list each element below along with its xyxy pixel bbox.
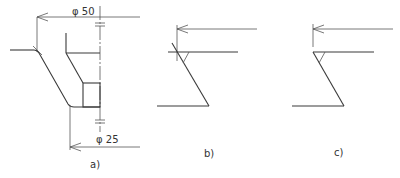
diagonal-edge bbox=[313, 52, 344, 106]
caption-c: c) bbox=[334, 147, 343, 158]
figure-a: φ 50 φ 25 a) bbox=[10, 6, 140, 170]
technical-drawing: φ 50 φ 25 a) b) bbox=[0, 0, 400, 178]
chamfer-mark bbox=[319, 52, 325, 63]
dimension-label-phi25: φ 25 bbox=[96, 134, 119, 145]
chamfer-mark bbox=[183, 52, 189, 63]
inner-rect bbox=[83, 83, 100, 107]
caption-b: b) bbox=[204, 148, 214, 159]
inner-diagonal bbox=[66, 53, 83, 83]
figure-b: b) bbox=[157, 25, 257, 159]
outer-profile bbox=[34, 50, 100, 107]
caption-a: a) bbox=[90, 159, 100, 170]
figure-c: c) bbox=[292, 24, 393, 158]
dimension-label-phi50: φ 50 bbox=[72, 6, 95, 17]
